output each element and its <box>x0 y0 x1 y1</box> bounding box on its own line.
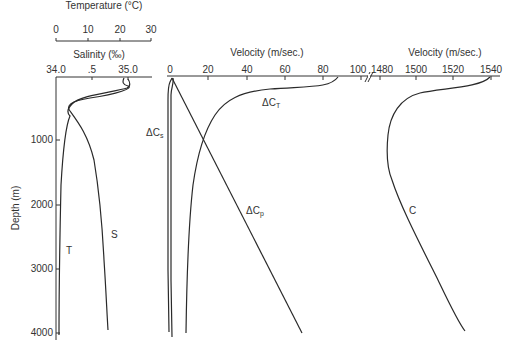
ocean-profile-chart: Temperature (°C) 0 10 20 30 Salinity (‰)… <box>0 0 512 351</box>
vel-tick-label: 100 <box>350 64 367 75</box>
vel-tick-label: 20 <box>202 64 214 75</box>
series-label-S: S <box>111 229 118 240</box>
vel-tick-label: 40 <box>241 64 253 75</box>
series-label-T: T <box>66 245 72 256</box>
series-label-delta-cp: ΔCp <box>246 205 264 218</box>
series-label-C: C <box>409 205 416 216</box>
depth-axis-title: Depth (m) <box>10 186 21 230</box>
vel-tick-label: 80 <box>317 64 329 75</box>
depth-tick-label: 3000 <box>31 263 54 274</box>
vel-tick-label: 0 <box>167 64 173 75</box>
depth-axis: 1000 2000 3000 4000 Depth (m) <box>10 77 60 340</box>
temp-tick-label: 20 <box>114 24 126 35</box>
temp-tick-label: 30 <box>145 24 157 35</box>
c-tick-label: 1520 <box>442 64 465 75</box>
depth-tick-label: 4000 <box>31 327 54 338</box>
temp-tick-label: 0 <box>53 24 59 35</box>
c-tick-label: 1480 <box>371 64 394 75</box>
salinity-curve: S <box>69 78 130 330</box>
salinity-axis-title: Salinity (‰) <box>73 49 125 60</box>
delta-ct-curve: ΔCT <box>186 77 338 333</box>
temperature-axis-title: Temperature (°C) <box>66 0 143 11</box>
temperature-curve: T <box>59 79 130 335</box>
temperature-axis: Temperature (°C) 0 10 20 30 <box>53 0 157 41</box>
c-tick-label: 1500 <box>405 64 428 75</box>
sound-speed-axis-title: Velocity (m/sec.) <box>408 47 481 58</box>
delta-cs-curve: ΔCs <box>146 78 173 337</box>
sound-speed-curve: C <box>387 77 490 331</box>
temp-tick-label: 10 <box>82 24 94 35</box>
sound-speed-axis: Velocity (m/sec.) 1480 1500 1520 1540 <box>371 47 503 80</box>
series-label-delta-ct: ΔCT <box>262 97 281 109</box>
depth-tick-label: 1000 <box>31 134 54 145</box>
c-tick-label: 1540 <box>480 64 503 75</box>
sal-tick-label: 34.0 <box>46 64 66 75</box>
vel-tick-label: 60 <box>279 64 291 75</box>
sal-tick-label: .5 <box>88 64 97 75</box>
salinity-axis: Salinity (‰) 34.0 .5 35.0 <box>46 49 152 80</box>
series-label-delta-cs: ΔCs <box>146 127 164 139</box>
depth-tick-label: 2000 <box>31 199 54 210</box>
velocity-axis-title: Velocity (m/sec.) <box>230 47 303 58</box>
velocity-axis: Velocity (m/sec.) 0 20 40 60 80 100 <box>167 47 367 80</box>
sal-tick-label: 35.0 <box>118 64 138 75</box>
